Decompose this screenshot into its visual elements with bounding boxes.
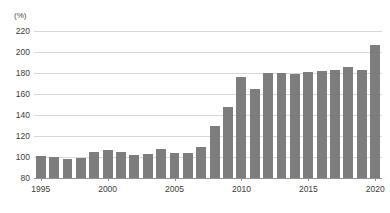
bar-2000 xyxy=(103,150,113,178)
bar-2011 xyxy=(250,89,260,178)
bar-2005 xyxy=(170,153,180,178)
bar-2013 xyxy=(277,73,287,178)
y-tick-label-140: 140 xyxy=(0,110,30,120)
bar-1998 xyxy=(76,158,86,178)
y-tick-label-160: 160 xyxy=(0,89,30,99)
bar-2007 xyxy=(196,147,206,179)
y-tick-label-200: 200 xyxy=(0,47,30,57)
x-tick-label-2005: 2005 xyxy=(165,184,184,194)
bar-slot xyxy=(342,31,355,178)
bar-slot xyxy=(288,31,301,178)
bar-slot xyxy=(235,31,248,178)
bar-slot xyxy=(315,31,328,178)
y-tick-label-100: 100 xyxy=(0,152,30,162)
bar-2010 xyxy=(236,77,246,178)
bar-slot xyxy=(101,31,114,178)
bar-slot xyxy=(154,31,167,178)
bar-slot xyxy=(328,31,341,178)
bar-slot xyxy=(128,31,141,178)
x-tick-label-2000: 2000 xyxy=(98,184,117,194)
bar-2006 xyxy=(183,153,193,178)
bar-1995 xyxy=(36,156,46,178)
x-tick-mark-2010 xyxy=(241,178,242,181)
bar-slot xyxy=(141,31,154,178)
x-tick-label-2015: 2015 xyxy=(299,184,318,194)
bar-2002 xyxy=(129,155,139,178)
bar-slot xyxy=(195,31,208,178)
bar-2004 xyxy=(156,149,166,178)
bar-2012 xyxy=(263,73,273,178)
y-axis-unit-label: (%) xyxy=(14,11,26,20)
bar-1999 xyxy=(89,152,99,178)
bar-slot xyxy=(181,31,194,178)
bar-2018 xyxy=(343,67,353,178)
x-tick-label-2010: 2010 xyxy=(232,184,251,194)
bar-chart: (%) 80100120140160180200220 199520002005… xyxy=(0,0,390,213)
bar-slot xyxy=(47,31,60,178)
y-tick-label-120: 120 xyxy=(0,131,30,141)
bar-slot xyxy=(261,31,274,178)
plot-area xyxy=(34,31,382,178)
bar-slot xyxy=(275,31,288,178)
y-tick-label-180: 180 xyxy=(0,68,30,78)
bar-slot xyxy=(34,31,47,178)
bar-slot xyxy=(248,31,261,178)
bar-slot xyxy=(74,31,87,178)
bar-2017 xyxy=(330,70,340,178)
bar-2014 xyxy=(290,74,300,178)
bar-slot xyxy=(208,31,221,178)
x-tick-label-2020: 2020 xyxy=(366,184,385,194)
x-tick-mark-2000 xyxy=(108,178,109,181)
y-tick-label-220: 220 xyxy=(0,26,30,36)
x-axis-line xyxy=(34,178,382,179)
bar-2009 xyxy=(223,107,233,178)
bar-slot xyxy=(221,31,234,178)
x-tick-mark-2015 xyxy=(308,178,309,181)
bar-slot xyxy=(88,31,101,178)
x-tick-label-1995: 1995 xyxy=(31,184,50,194)
bar-2003 xyxy=(143,154,153,178)
bar-2020 xyxy=(370,45,380,178)
bar-2016 xyxy=(317,71,327,178)
bar-slot xyxy=(114,31,127,178)
bar-slot xyxy=(61,31,74,178)
bar-slot xyxy=(355,31,368,178)
y-tick-label-80: 80 xyxy=(0,173,30,183)
bar-series xyxy=(34,31,382,178)
x-tick-mark-2005 xyxy=(175,178,176,181)
bar-2015 xyxy=(303,72,313,178)
x-tick-mark-1995 xyxy=(41,178,42,181)
bar-slot xyxy=(168,31,181,178)
x-tick-mark-2020 xyxy=(375,178,376,181)
bar-2001 xyxy=(116,152,126,178)
bar-2008 xyxy=(210,126,220,179)
bar-1997 xyxy=(63,159,73,178)
bar-slot xyxy=(368,31,381,178)
bar-slot xyxy=(302,31,315,178)
bar-2019 xyxy=(357,70,367,178)
bar-1996 xyxy=(49,157,59,178)
